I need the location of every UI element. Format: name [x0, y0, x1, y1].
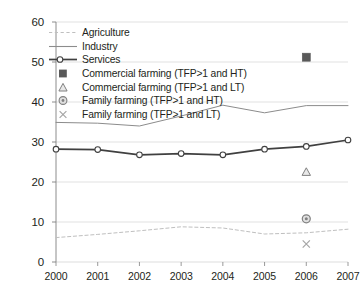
circle-dot-key-icon: [48, 94, 78, 107]
marker-filled-square: [302, 53, 310, 61]
open-triangle-key-icon: [48, 81, 78, 94]
x-tick-marks-group: [56, 262, 348, 266]
solid-line-key-icon: [48, 40, 78, 53]
x-axis-tick-label-2001: 2001: [78, 270, 118, 282]
marker-open-circle: [220, 152, 226, 158]
marker-open-circle: [95, 147, 101, 153]
series-line-agriculture: [56, 227, 348, 238]
legend-key-circle-dot-key: [48, 94, 78, 107]
filled-square-key-icon: [48, 67, 78, 80]
marker-cross-x: [303, 240, 310, 247]
legend-key-line-circle-key: [48, 53, 78, 66]
y-axis-tick-label-10: 10: [14, 216, 44, 228]
x-axis-tick-label-2004: 2004: [203, 270, 243, 282]
legend-key-filled-square-key: [48, 67, 78, 80]
y-axis-tick-label-40: 40: [14, 96, 44, 108]
y-axis-tick-label-20: 20: [14, 176, 44, 188]
legend-item-2[interactable]: Services: [48, 53, 278, 67]
legend-key-dashed-line-key: [48, 26, 78, 39]
legend-key-solid-line-key: [48, 40, 78, 53]
legend-key-cross-x-key: [48, 108, 78, 121]
marker-open-circle: [303, 144, 309, 150]
legend-label: Services: [82, 54, 120, 65]
x-axis-tick-label-2005: 2005: [245, 270, 285, 282]
line-circle-key-icon: [48, 53, 78, 66]
x-axis-tick-label-2007: 2007: [328, 270, 364, 282]
legend-label: Industry: [82, 41, 117, 52]
y-axis-tick-label-50: 50: [14, 56, 44, 68]
marker-open-circle: [137, 152, 143, 158]
x-axis-tick-label-2003: 2003: [161, 270, 201, 282]
cross-x-key-icon: [48, 108, 78, 121]
marker-open-triangle: [302, 168, 310, 176]
legend-key-open-triangle-key: [48, 81, 78, 94]
legend-item-1[interactable]: Industry: [48, 40, 278, 54]
marker-open-circle: [53, 146, 59, 152]
legend-item-5[interactable]: Family farming (TFP>1 and HT): [48, 94, 278, 108]
legend-label: Family farming (TFP>1 and HT): [82, 95, 223, 106]
dashed-line-key-icon: [48, 26, 78, 39]
x-axis-tick-label-2006: 2006: [286, 270, 326, 282]
legend-label: Family farming (TFP>1 and LT): [82, 109, 220, 120]
marker-circle-dot-inner: [305, 217, 308, 220]
marker-open-circle: [262, 146, 268, 152]
x-axis-tick-label-2000: 2000: [36, 270, 76, 282]
marker-open-circle: [345, 137, 351, 143]
legend-label: Agriculture: [82, 27, 130, 38]
legend-item-3[interactable]: Commercial farming (TFP>1 and HT): [48, 67, 278, 81]
y-axis-tick-label-30: 30: [14, 136, 44, 148]
chart-legend: AgricultureIndustryServicesCommercial fa…: [48, 26, 278, 121]
legend-label: Commercial farming (TFP>1 and LT): [82, 82, 244, 93]
marker-open-circle: [178, 151, 184, 157]
y-axis-tick-label-0: 0: [14, 256, 44, 268]
legend-item-0[interactable]: Agriculture: [48, 26, 278, 40]
x-axis-tick-label-2002: 2002: [119, 270, 159, 282]
legend-item-6[interactable]: Family farming (TFP>1 and LT): [48, 108, 278, 122]
legend-item-4[interactable]: Commercial farming (TFP>1 and LT): [48, 80, 278, 94]
legend-label: Commercial farming (TFP>1 and HT): [82, 68, 247, 79]
y-axis-tick-label-60: 60: [14, 16, 44, 28]
